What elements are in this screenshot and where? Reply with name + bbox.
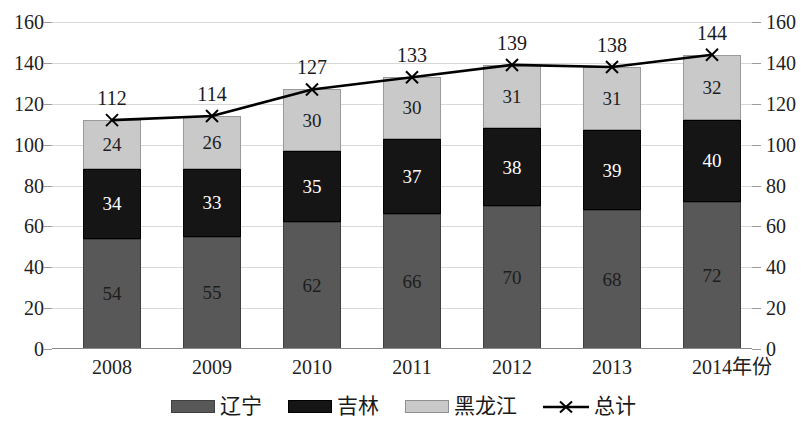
y-axis-tick-left bbox=[43, 104, 52, 105]
bar-segment-辽宁[interactable]: 62 bbox=[283, 222, 341, 349]
stacked-bar[interactable]: 543424 bbox=[83, 120, 141, 349]
bar-segment-吉林[interactable]: 37 bbox=[383, 139, 441, 215]
y-axis-tick-left bbox=[43, 22, 52, 23]
y-axis-tick-label-right: 160 bbox=[766, 12, 796, 32]
y-axis-tick-left bbox=[43, 63, 52, 64]
bar-segment-黑龙江[interactable]: 31 bbox=[583, 67, 641, 130]
y-axis-tick-right bbox=[752, 145, 761, 146]
y-axis-tick-label-right: 140 bbox=[766, 53, 796, 73]
stacked-bar[interactable]: 683931 bbox=[583, 67, 641, 349]
y-axis-tick-label-left: 20 bbox=[24, 298, 44, 318]
bar-segment-黑龙江[interactable]: 30 bbox=[383, 77, 441, 138]
total-data-label: 127 bbox=[297, 57, 327, 77]
y-axis-tick-label-left: 80 bbox=[24, 176, 44, 196]
legend-label: 吉林 bbox=[337, 396, 379, 417]
bar-segment-吉林[interactable]: 33 bbox=[183, 169, 241, 236]
x-axis-tick-label: 2011 bbox=[392, 357, 431, 377]
y-axis-tick-right bbox=[752, 267, 761, 268]
y-axis-tick-right bbox=[752, 226, 761, 227]
y-axis-tick-right bbox=[752, 104, 761, 105]
stacked-bar[interactable]: 623530 bbox=[283, 89, 341, 349]
y-axis-tick-left bbox=[43, 267, 52, 268]
y-axis-tick-label-left: 40 bbox=[24, 257, 44, 277]
bar-segment-黑龙江[interactable]: 24 bbox=[83, 120, 141, 169]
bar-segment-辽宁[interactable]: 66 bbox=[383, 214, 441, 349]
y-axis-tick-label-right: 80 bbox=[766, 176, 786, 196]
y-axis-tick-label-right: 60 bbox=[766, 216, 786, 236]
chart-legend: 辽宁吉林黑龙江总计 bbox=[0, 396, 807, 417]
y-axis-tick-label-right: 100 bbox=[766, 135, 796, 155]
bar-segment-黑龙江[interactable]: 31 bbox=[483, 65, 541, 128]
legend-swatch-icon bbox=[288, 400, 332, 413]
y-axis-tick-left bbox=[43, 186, 52, 187]
bar-segment-吉林[interactable]: 40 bbox=[683, 120, 741, 202]
legend-item[interactable]: 辽宁 bbox=[171, 396, 262, 417]
x-axis-title: 年份 bbox=[732, 357, 772, 377]
legend-label: 总计 bbox=[594, 396, 636, 417]
bar-segment-辽宁[interactable]: 72 bbox=[683, 202, 741, 349]
y-axis-tick-label-left: 160 bbox=[14, 12, 44, 32]
gridline bbox=[52, 22, 752, 23]
total-data-label: 133 bbox=[397, 45, 427, 65]
legend-label: 辽宁 bbox=[220, 396, 262, 417]
bar-segment-黑龙江[interactable]: 26 bbox=[183, 116, 241, 169]
legend-item[interactable]: 总计 bbox=[543, 396, 636, 417]
x-axis-tick-label: 2014 bbox=[692, 357, 732, 377]
bar-segment-吉林[interactable]: 34 bbox=[83, 169, 141, 238]
plot-area: 5434245533266235306637307038316839317240… bbox=[52, 22, 752, 349]
legend-item[interactable]: 吉林 bbox=[288, 396, 379, 417]
y-axis-tick-left bbox=[43, 226, 52, 227]
y-axis-tick-left bbox=[43, 308, 52, 309]
y-axis-tick-label-left: 120 bbox=[14, 94, 44, 114]
y-axis-tick-right bbox=[752, 349, 761, 350]
stacked-bar[interactable]: 724032 bbox=[683, 55, 741, 349]
y-axis-tick-right bbox=[752, 186, 761, 187]
y-axis-tick-label-left: 100 bbox=[14, 135, 44, 155]
legend-item[interactable]: 黑龙江 bbox=[405, 396, 517, 417]
bar-segment-黑龙江[interactable]: 30 bbox=[283, 89, 341, 150]
stacked-bar[interactable]: 663730 bbox=[383, 77, 441, 349]
y-axis-tick-label-right: 20 bbox=[766, 298, 786, 318]
x-axis-tick-label: 2008 bbox=[92, 357, 132, 377]
y-axis-tick-label-left: 60 bbox=[24, 216, 44, 236]
x-axis-tick-label: 2009 bbox=[192, 357, 232, 377]
y-axis-tick-label-right: 120 bbox=[766, 94, 796, 114]
x-axis-tick-label: 2012 bbox=[492, 357, 532, 377]
y-axis-tick-right bbox=[752, 22, 761, 23]
y-axis-tick-left bbox=[43, 349, 52, 350]
legend-swatch-icon bbox=[171, 400, 215, 413]
bar-segment-吉林[interactable]: 39 bbox=[583, 130, 641, 210]
y-axis-tick-right bbox=[752, 308, 761, 309]
legend-swatch-icon bbox=[405, 400, 449, 413]
total-data-label: 144 bbox=[697, 23, 727, 43]
y-axis-tick-label-left: 140 bbox=[14, 53, 44, 73]
legend-label: 黑龙江 bbox=[454, 396, 517, 417]
legend-line-marker-icon bbox=[543, 400, 589, 414]
x-axis-line bbox=[52, 348, 752, 350]
x-axis-tick-label: 2013 bbox=[592, 357, 632, 377]
bar-segment-辽宁[interactable]: 54 bbox=[83, 239, 141, 349]
bar-segment-黑龙江[interactable]: 32 bbox=[683, 55, 741, 120]
y-axis-tick-right bbox=[752, 63, 761, 64]
bar-segment-辽宁[interactable]: 70 bbox=[483, 206, 541, 349]
total-data-label: 112 bbox=[97, 88, 126, 108]
total-data-label: 138 bbox=[597, 35, 627, 55]
bar-segment-辽宁[interactable]: 68 bbox=[583, 210, 641, 349]
total-data-label: 139 bbox=[497, 33, 527, 53]
bar-segment-辽宁[interactable]: 55 bbox=[183, 237, 241, 349]
stacked-bar[interactable]: 553326 bbox=[183, 116, 241, 349]
y-axis-tick-label-right: 40 bbox=[766, 257, 786, 277]
total-data-label: 114 bbox=[197, 84, 226, 104]
chart-screenshot: 020406080100120140160 020406080100120140… bbox=[0, 0, 807, 425]
bar-segment-吉林[interactable]: 35 bbox=[283, 151, 341, 223]
y-axis-tick-left bbox=[43, 145, 52, 146]
bar-segment-吉林[interactable]: 38 bbox=[483, 128, 541, 206]
x-axis-tick-label: 2010 bbox=[292, 357, 332, 377]
stacked-bar[interactable]: 703831 bbox=[483, 65, 541, 349]
